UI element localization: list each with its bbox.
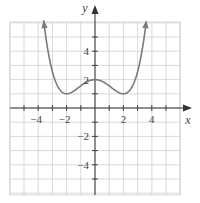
svg-text:2: 2 — [121, 113, 127, 125]
svg-text:−4: −4 — [30, 113, 42, 125]
svg-text:4: 4 — [149, 113, 155, 125]
axes — [10, 5, 192, 195]
svg-text:y: y — [81, 1, 88, 15]
svg-text:−2: −2 — [59, 113, 71, 125]
svg-text:4: 4 — [84, 45, 90, 57]
svg-text:−2: −2 — [77, 130, 89, 142]
svg-text:2: 2 — [84, 74, 90, 86]
graph: −4−22442−2−4xy — [0, 0, 200, 203]
tick-labels: −4−22442−2−4xy — [30, 1, 191, 171]
svg-text:−4: −4 — [77, 159, 89, 171]
svg-text:x: x — [184, 113, 191, 127]
